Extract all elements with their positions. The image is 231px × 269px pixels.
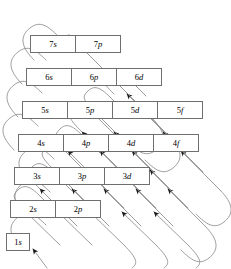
orbital-cell-6d[interactable]: 6d bbox=[116, 68, 162, 86]
orbital-cell-4p[interactable]: 4p bbox=[63, 134, 109, 152]
orbital-label-2s: 2s bbox=[29, 205, 37, 214]
orbital-label-3s: 3s bbox=[33, 172, 41, 181]
arrow-5f-7p-d bbox=[181, 151, 220, 190]
orbital-label-3p: 3p bbox=[78, 172, 87, 181]
orbital-label-6s: 6s bbox=[45, 73, 53, 82]
orbital-cell-4d[interactable]: 4d bbox=[108, 134, 154, 152]
orbital-row-4: 4s4p4d4f bbox=[18, 134, 199, 152]
orbital-row-5: 5s5p5d5f bbox=[22, 101, 203, 119]
orbital-cell-4s[interactable]: 4s bbox=[18, 134, 64, 152]
orbital-row-7: 7s7p bbox=[30, 35, 121, 53]
orbital-cell-1s[interactable]: 1s bbox=[6, 233, 30, 251]
orbital-label-1s: 1s bbox=[14, 238, 22, 247]
orbital-label-5s: 5s bbox=[41, 106, 49, 115]
arrow-to-1s bbox=[33, 249, 47, 268]
loop-right-3d bbox=[156, 245, 168, 268]
orbital-cell-5p[interactable]: 5p bbox=[67, 101, 113, 119]
orbital-cell-3p[interactable]: 3p bbox=[59, 167, 105, 185]
arrow-3d-5s-a bbox=[122, 212, 156, 245]
orbital-row-6: 6s6p6d bbox=[26, 68, 162, 86]
orbital-cell-6p[interactable]: 6p bbox=[71, 68, 117, 86]
orbital-cell-2p[interactable]: 2p bbox=[55, 200, 101, 218]
orbital-cell-7p[interactable]: 7p bbox=[75, 35, 121, 53]
orbital-cell-4f[interactable]: 4f bbox=[153, 134, 199, 152]
orbital-cell-5d[interactable]: 5d bbox=[112, 101, 158, 119]
orbital-label-4d: 4d bbox=[127, 139, 136, 148]
loop-right-4d bbox=[188, 245, 200, 268]
aufbau-diagram: 7s7p6s6p6d5s5p5d5f4s4p4d4f3s3p3d2s2p1s bbox=[0, 0, 231, 269]
orbital-cell-5f[interactable]: 5f bbox=[157, 101, 203, 119]
orbital-label-4p: 4p bbox=[82, 139, 91, 148]
orbital-label-2p: 2p bbox=[74, 205, 83, 214]
orbital-label-7s: 7s bbox=[49, 40, 57, 49]
arrow-3d-5s-b bbox=[104, 189, 141, 226]
loop-right-5f bbox=[196, 190, 231, 226]
orbital-cell-2s[interactable]: 2s bbox=[10, 200, 56, 218]
orbital-label-6p: 6p bbox=[90, 73, 99, 82]
orbital-label-5d: 5d bbox=[131, 106, 140, 115]
arrow-4d-6s-b bbox=[136, 189, 173, 226]
orbital-row-2: 2s2p bbox=[10, 200, 101, 218]
orbital-label-4s: 4s bbox=[37, 139, 45, 148]
loop-right-3p bbox=[124, 245, 136, 268]
arrow-4f-7s-c bbox=[150, 170, 188, 208]
orbital-row-1: 1s bbox=[6, 233, 30, 251]
orbital-cell-3s[interactable]: 3s bbox=[14, 167, 60, 185]
orbital-label-7p: 7p bbox=[94, 40, 103, 49]
orbital-cell-6s[interactable]: 6s bbox=[26, 68, 72, 86]
arrow-4f-7s-b bbox=[168, 189, 205, 226]
orbital-cell-5s[interactable]: 5s bbox=[22, 101, 68, 119]
orbital-label-5f: 5f bbox=[177, 106, 184, 115]
arrow-4d-6s-a bbox=[154, 212, 188, 245]
orbital-row-3: 3s3p3d bbox=[14, 167, 150, 185]
orbital-label-3d: 3d bbox=[123, 172, 132, 181]
orbital-cell-3d[interactable]: 3d bbox=[104, 167, 150, 185]
orbital-label-4f: 4f bbox=[173, 139, 180, 148]
orbital-label-6d: 6d bbox=[135, 73, 144, 82]
orbital-cell-7s[interactable]: 7s bbox=[30, 35, 76, 53]
orbital-label-5p: 5p bbox=[86, 106, 95, 115]
